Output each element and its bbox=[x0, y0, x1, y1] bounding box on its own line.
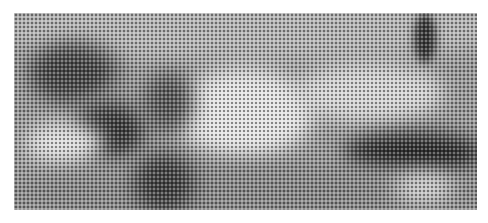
halftone-photo bbox=[14, 13, 477, 210]
halftone-highlights bbox=[14, 13, 477, 210]
